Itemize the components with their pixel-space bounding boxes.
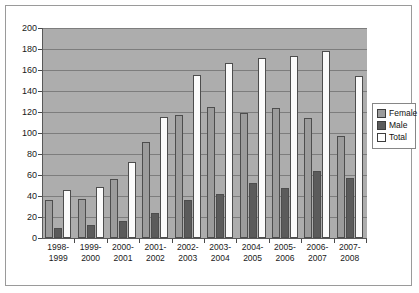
bar-total-2004-2005[interactable] <box>258 58 266 238</box>
x-axis-label-line1: 1999- <box>72 242 108 253</box>
legend-swatch-female-icon <box>377 109 386 118</box>
y-axis-tick-label-140: 140 <box>6 87 37 96</box>
x-axis-label-line2: 1999 <box>40 253 76 264</box>
x-axis-label-2006-2007: 2006-2007 <box>299 242 335 264</box>
chart-legend: FemaleMaleTotal <box>372 103 416 149</box>
y-axis-tick-label-60: 60 <box>6 171 37 180</box>
bar-total-1998-1999[interactable] <box>63 190 71 238</box>
y-axis-tick-200 <box>38 28 42 29</box>
x-axis-label-line1: 2003- <box>202 242 238 253</box>
bar-total-1999-2000[interactable] <box>96 187 104 238</box>
y-axis-tick-label-0: 0 <box>6 234 37 243</box>
x-axis-label-2007-2008: 2007-2008 <box>332 242 368 264</box>
y-axis-tick-label-80: 80 <box>6 150 37 159</box>
x-axis-label-line1: 2006- <box>299 242 335 253</box>
legend-item-total[interactable]: Total <box>377 133 412 142</box>
y-axis-tick-40 <box>38 196 42 197</box>
x-axis-label-1998-1999: 1998-1999 <box>40 242 76 264</box>
y-axis-tick-180 <box>38 49 42 50</box>
bar-total-2000-2001[interactable] <box>128 162 136 238</box>
bar-female-2005-2006[interactable] <box>272 108 280 238</box>
bar-female-2001-2002[interactable] <box>142 142 150 238</box>
bar-female-2006-2007[interactable] <box>304 118 312 238</box>
x-axis-label-2004-2005: 2004-2005 <box>234 242 270 264</box>
bar-group <box>175 28 201 238</box>
x-axis-label-line2: 2006 <box>267 253 303 264</box>
y-axis-tick-label-20: 20 <box>6 213 37 222</box>
x-axis-label-line1: 2004- <box>234 242 270 253</box>
y-axis-tick-label-200: 200 <box>6 24 37 33</box>
y-axis-tick-0 <box>38 238 42 239</box>
bar-group <box>45 28 71 238</box>
bar-male-1998-1999[interactable] <box>54 228 62 239</box>
x-axis-label-1999-2000: 1999-2000 <box>72 242 108 264</box>
y-axis-tick-20 <box>38 217 42 218</box>
bar-total-2005-2006[interactable] <box>290 56 298 238</box>
x-axis-label-2000-2001: 2000-2001 <box>105 242 141 264</box>
legend-swatch-total-icon <box>377 133 386 142</box>
y-axis-tick-80 <box>38 154 42 155</box>
bar-female-2003-2004[interactable] <box>207 107 215 238</box>
bar-total-2006-2007[interactable] <box>322 51 330 238</box>
bar-female-2000-2001[interactable] <box>110 179 118 238</box>
bar-female-1998-1999[interactable] <box>45 200 53 238</box>
bar-total-2002-2003[interactable] <box>193 75 201 238</box>
y-axis-tick-100 <box>38 133 42 134</box>
y-axis-tick-label-160: 160 <box>6 66 37 75</box>
bar-total-2007-2008[interactable] <box>355 76 363 238</box>
bar-male-2000-2001[interactable] <box>119 221 127 238</box>
legend-label-female: Female <box>389 109 417 118</box>
bar-group <box>110 28 136 238</box>
bar-female-2002-2003[interactable] <box>175 115 183 238</box>
x-axis-label-2002-2003: 2002-2003 <box>170 242 206 264</box>
x-axis-label-2005-2006: 2005-2006 <box>267 242 303 264</box>
legend-label-male: Male <box>389 121 407 130</box>
x-axis-label-line1: 2002- <box>170 242 206 253</box>
x-axis-label-line1: 2001- <box>137 242 173 253</box>
bar-group <box>337 28 363 238</box>
bar-female-1999-2000[interactable] <box>78 199 86 238</box>
bar-male-2007-2008[interactable] <box>346 178 354 238</box>
bar-total-2003-2004[interactable] <box>225 63 233 238</box>
bar-male-2001-2002[interactable] <box>151 213 159 238</box>
x-axis-label-line2: 2000 <box>72 253 108 264</box>
chart-frame: 200180160140120100806040200 1998-1999199… <box>5 5 412 286</box>
y-axis-tick-label-120: 120 <box>6 108 37 117</box>
x-axis-label-line2: 2002 <box>137 253 173 264</box>
x-axis-label-line1: 1998- <box>40 242 76 253</box>
bar-male-2003-2004[interactable] <box>216 194 224 238</box>
y-axis-tick-label-180: 180 <box>6 45 37 54</box>
legend-item-female[interactable]: Female <box>377 109 412 118</box>
x-axis-label-line2: 2007 <box>299 253 335 264</box>
bar-group <box>207 28 233 238</box>
bar-male-2002-2003[interactable] <box>184 200 192 238</box>
bar-total-2001-2002[interactable] <box>160 117 168 238</box>
x-axis-label-2003-2004: 2003-2004 <box>202 242 238 264</box>
y-axis-tick-140 <box>38 91 42 92</box>
bar-female-2004-2005[interactable] <box>240 113 248 238</box>
bar-group <box>272 28 298 238</box>
x-axis-label-line2: 2003 <box>170 253 206 264</box>
bar-group <box>304 28 330 238</box>
bar-male-2005-2006[interactable] <box>281 188 289 238</box>
y-axis-tick-label-100: 100 <box>6 129 37 138</box>
bar-female-2007-2008[interactable] <box>337 136 345 238</box>
bar-male-1999-2000[interactable] <box>87 225 95 238</box>
y-axis-tick-60 <box>38 175 42 176</box>
x-axis-label-line2: 2008 <box>332 253 368 264</box>
bar-group <box>240 28 266 238</box>
bar-group <box>78 28 104 238</box>
x-axis-label-line1: 2005- <box>267 242 303 253</box>
x-axis-label-line2: 2005 <box>234 253 270 264</box>
x-axis-label-line2: 2004 <box>202 253 238 264</box>
y-axis-tick-160 <box>38 70 42 71</box>
x-axis-label-2001-2002: 2001-2002 <box>137 242 173 264</box>
bar-male-2004-2005[interactable] <box>249 183 257 238</box>
legend-swatch-male-icon <box>377 121 386 130</box>
bar-male-2006-2007[interactable] <box>313 171 321 238</box>
bar-group <box>142 28 168 238</box>
y-axis-tick-label-40: 40 <box>6 192 37 201</box>
legend-item-male[interactable]: Male <box>377 121 412 130</box>
y-axis-tick-120 <box>38 112 42 113</box>
x-axis-label-line1: 2000- <box>105 242 141 253</box>
